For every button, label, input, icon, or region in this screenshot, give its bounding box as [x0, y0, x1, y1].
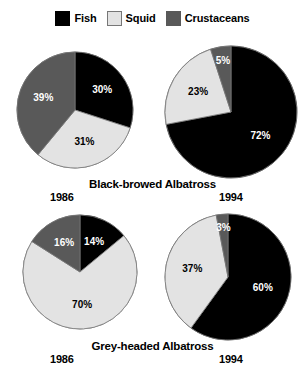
legend-swatch-crustaceans: [166, 11, 181, 26]
pie-chart-black-browed-1986: 30%31%39%: [3, 38, 147, 182]
legend-label-crustaceans: Crustaceans: [185, 13, 250, 24]
slice-label-crustaceans-top-left: 39%: [33, 92, 53, 103]
pie-svg-bottom-left: 14%70%16%: [9, 201, 151, 343]
year-label-grey-headed-1994: 1994: [219, 353, 243, 365]
legend-label-squid: Squid: [126, 13, 156, 24]
slice-label-squid-bottom-left: 70%: [72, 299, 92, 310]
chart-legend: Fish Squid Crustaceans: [0, 11, 305, 26]
legend-label-fish: Fish: [74, 13, 96, 24]
pie-svg-top-left: 30%31%39%: [3, 38, 147, 182]
slice-label-crustaceans-bottom-left: 16%: [54, 237, 74, 248]
pie-chart-grey-headed-1994: 60%37%3%: [151, 200, 305, 354]
slice-label-squid-top-right: 23%: [188, 86, 208, 97]
legend-swatch-squid: [107, 11, 122, 26]
year-label-grey-headed-1986: 1986: [50, 353, 74, 365]
legend-item-squid: Squid: [107, 11, 156, 26]
pie-svg-top-right: 72%23%5%: [151, 32, 305, 192]
year-label-black-browed-1994: 1994: [219, 191, 243, 203]
species-caption-black-browed: Black-browed Albatross: [0, 178, 305, 190]
slice-label-fish-bottom-right: 60%: [253, 282, 273, 293]
legend-item-fish: Fish: [55, 11, 96, 26]
slice-label-fish-top-left: 30%: [92, 84, 112, 95]
pie-svg-bottom-right: 60%37%3%: [151, 200, 305, 354]
slice-label-squid-top-left: 31%: [74, 136, 94, 147]
year-label-black-browed-1986: 1986: [50, 191, 74, 203]
legend-item-crustaceans: Crustaceans: [166, 11, 250, 26]
pie-chart-grey-headed-1986: 14%70%16%: [9, 201, 151, 343]
legend-swatch-fish: [55, 11, 70, 26]
slice-label-crustaceans-top-right: 5%: [216, 55, 231, 66]
slice-label-fish-bottom-left: 14%: [84, 236, 104, 247]
slice-label-squid-bottom-right: 37%: [182, 263, 202, 274]
pie-chart-black-browed-1994: 72%23%5%: [151, 32, 305, 192]
slice-label-crustaceans-bottom-right: 3%: [216, 222, 231, 233]
slice-label-fish-top-right: 72%: [250, 130, 270, 141]
species-caption-grey-headed: Grey-headed Albatross: [0, 340, 305, 352]
